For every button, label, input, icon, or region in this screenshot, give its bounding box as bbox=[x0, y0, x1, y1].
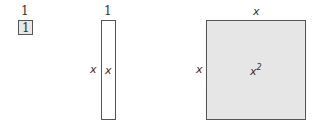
x-tile-inner-label: x bbox=[105, 65, 112, 77]
x2-tile-side-label: x bbox=[196, 64, 203, 76]
x-squared-tile: x2 bbox=[206, 20, 306, 120]
x-tile: x bbox=[101, 20, 116, 120]
unit-tile-top-label: 1 bbox=[21, 5, 29, 17]
unit-tile-inner-label: 1 bbox=[22, 22, 30, 34]
x-tile-side-label: x bbox=[90, 64, 97, 76]
x2-tile-top-label: x bbox=[253, 6, 260, 18]
x2-tile-inner-label: x2 bbox=[250, 62, 262, 78]
unit-tile: 1 bbox=[18, 20, 33, 35]
exponent: 2 bbox=[257, 63, 262, 72]
x-tile-top-label: 1 bbox=[104, 5, 112, 17]
